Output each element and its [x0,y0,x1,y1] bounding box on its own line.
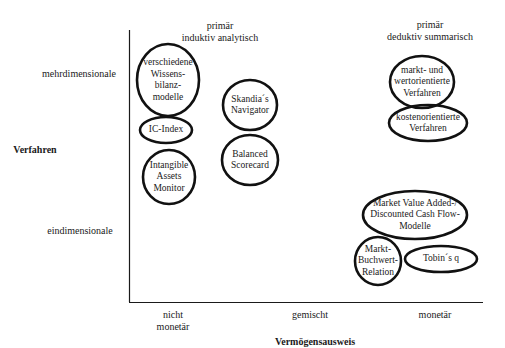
x-axis-title: Vermögensausweis [255,336,375,348]
x-label-monetaer: monetär [405,309,465,321]
column-header-deduktiv-line1: primär [380,19,480,31]
node-label-tobins-q: Tobin´s q [405,246,477,272]
column-header-induktiv-line2: induktiv analytisch [170,32,270,44]
node-label-ic-index: IC-Index [140,117,192,143]
node-label-markt-wertorientierte: markt- und wertorientierte Verfahren [390,56,454,108]
node-label-wissensbilanz: verschiedene Wissens- bilanz- modelle [137,44,199,116]
x-label-nicht-monetaer: nicht monetär [148,309,198,333]
column-header-deduktiv: primär deduktiv summarisch [380,19,480,43]
node-label-intangible-assets-monitor: Intangible Assets Monitor [143,150,195,204]
y-axis-title: Verfahren [0,144,70,156]
node-label-kostenorientierte: kostenorientierte Verfahren [389,105,467,141]
node-label-markt-buchwert: Markt- Buchwert- Relation [355,237,401,285]
y-label-mehrdimensionale: mehrdimensionale [34,68,124,80]
column-header-induktiv-line1: primär [170,20,270,32]
node-label-skandia-navigator: Skandia´s Navigator [223,80,277,130]
column-header-induktiv: primär induktiv analytisch [170,20,270,44]
node-label-market-value-added: Market Value Added-/ Discounted Cash Flo… [363,191,467,239]
column-header-deduktiv-line2: deduktiv summarisch [380,31,480,43]
y-label-eindimensionale: eindimensionale [40,225,120,237]
x-label-gemischt: gemischt [280,309,340,321]
node-label-balanced-scorecard: Balanced Scorecard [222,135,278,185]
